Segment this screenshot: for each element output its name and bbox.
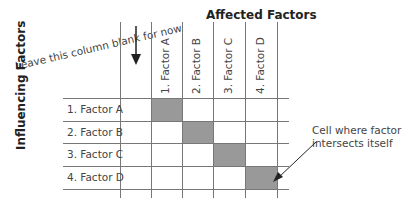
diagonal-cell-a — [152, 99, 182, 121]
column-label: 4. Factor D — [254, 37, 266, 94]
row-label: 2. Factor B — [67, 126, 123, 138]
callout-line-1: Cell where factor — [312, 124, 401, 137]
affected-factors-title: Affected Factors — [206, 8, 317, 22]
grid-hline — [63, 143, 289, 144]
influencing-factors-title: Influencing Factors — [14, 30, 28, 150]
diagonal-cell-b — [183, 122, 213, 143]
grid-hline — [63, 121, 289, 122]
row-label: 1. Factor A — [67, 103, 123, 115]
down-arrow-icon — [130, 26, 142, 66]
grid-hline — [63, 189, 289, 190]
callout-line-2: intersects itself — [312, 137, 401, 150]
row-label: 4. Factor D — [67, 171, 124, 183]
grid-vline — [213, 22, 214, 198]
callout-arrow-icon — [270, 140, 320, 185]
callout-text: Cell where factor intersects itself — [312, 124, 401, 150]
row-label: 3. Factor C — [67, 148, 123, 160]
column-label: 3. Factor C — [222, 38, 234, 94]
blank-column-note: Leave this column blank for now — [14, 22, 183, 72]
diagonal-cell-c — [214, 144, 245, 166]
column-label: 2. Factor B — [190, 38, 202, 94]
grid-vline — [182, 22, 183, 198]
column-label: 1. Factor A — [159, 38, 171, 94]
